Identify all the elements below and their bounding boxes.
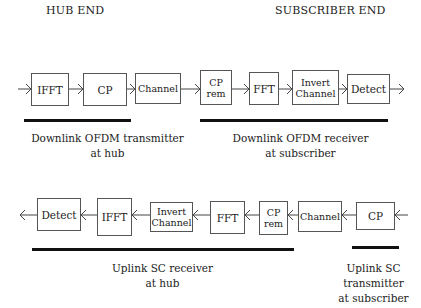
block-label: FFT <box>253 83 275 95</box>
block-label: IFFT <box>102 211 128 223</box>
block-label: IFFT <box>37 84 63 96</box>
uplink-channel-block: Channel <box>298 201 342 232</box>
block-label-line2: rem <box>206 88 225 99</box>
block-label: Channel <box>138 83 178 94</box>
block-label: FFT <box>217 212 239 224</box>
caption-line3: at subscriber <box>326 291 421 306</box>
caption-line2: transmitter <box>326 276 421 291</box>
block-label: CP <box>368 210 383 222</box>
downlink-transmitter-bar <box>24 119 131 122</box>
downlink-cp-rem-block: CP rem <box>200 70 232 105</box>
caption-line2: at hub <box>20 146 195 161</box>
block-label-line2: Channel <box>152 217 192 228</box>
uplink-ifft-block: IFFT <box>97 198 132 236</box>
block-label-line1: Invert <box>301 77 330 88</box>
uplink-invert-channel-block: Invert Channel <box>150 202 193 232</box>
caption-line2: at subscriber <box>218 146 383 161</box>
downlink-ifft-block: IFFT <box>31 73 69 106</box>
downlink-fft-block: FFT <box>249 72 279 105</box>
caption-line1: Uplink SC <box>326 261 421 276</box>
uplink-cp-rem-block: CP rem <box>259 201 288 235</box>
block-label-line1: Invert <box>157 206 186 217</box>
block-label-line2: Channel <box>296 88 336 99</box>
caption-line1: Downlink OFDM receiver <box>218 131 383 146</box>
downlink-detect-block: Detect <box>347 74 390 104</box>
block-label-line2: rem <box>264 218 283 229</box>
downlink-invert-channel-block: Invert Channel <box>292 70 339 105</box>
caption-line1: Uplink SC receiver <box>80 261 245 276</box>
downlink-receiver-bar <box>200 119 388 122</box>
block-label-line1: CP <box>209 77 223 88</box>
uplink-receiver-caption: Uplink SC receiver at hub <box>80 261 245 291</box>
uplink-cp-block: CP <box>356 202 395 230</box>
downlink-channel-block: Channel <box>135 73 181 104</box>
caption-line2: at hub <box>80 276 245 291</box>
uplink-detect-block: Detect <box>37 198 81 231</box>
downlink-cp-block: CP <box>83 73 127 106</box>
uplink-fft-block: FFT <box>210 201 245 234</box>
uplink-transmitter-bar <box>352 246 399 249</box>
downlink-transmitter-caption: Downlink OFDM transmitter at hub <box>20 131 195 161</box>
block-label: Detect <box>41 209 76 221</box>
block-label: Detect <box>351 83 386 95</box>
caption-line1: Downlink OFDM transmitter <box>20 131 195 146</box>
uplink-transmitter-caption: Uplink SC transmitter at subscriber <box>326 261 421 306</box>
block-label-line1: CP <box>267 207 281 218</box>
downlink-receiver-caption: Downlink OFDM receiver at subscriber <box>218 131 383 161</box>
uplink-receiver-bar <box>32 248 294 251</box>
block-label: Channel <box>300 211 340 222</box>
block-label: CP <box>97 84 112 96</box>
